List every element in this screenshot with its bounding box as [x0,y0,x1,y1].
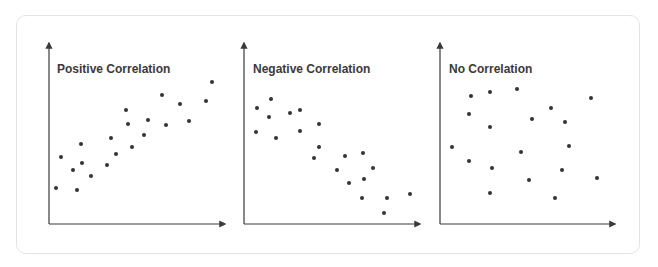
data-point [527,178,531,182]
data-point [360,196,364,200]
data-point [105,163,109,167]
data-point [130,145,134,149]
data-point [114,152,118,156]
data-point [317,122,321,126]
data-point [469,94,473,98]
data-point [488,125,492,129]
data-point [467,112,471,116]
data-point [595,176,599,180]
data-point [312,156,316,160]
data-point [335,168,339,172]
data-point [288,111,292,115]
data-point [160,93,164,97]
data-point [467,159,471,163]
data-point [146,118,150,122]
data-point [549,106,553,110]
data-point [317,145,321,149]
data-point [450,145,454,149]
data-point [187,119,191,123]
data-point [71,168,75,172]
data-point [515,87,519,91]
data-point [124,108,128,112]
data-point [178,102,182,106]
panel-negative-correlation: Negative Correlation [244,43,420,224]
chart-title: No Correlation [449,62,532,76]
data-point [126,122,130,126]
data-point [361,151,365,155]
chart-title: Negative Correlation [253,62,370,76]
data-point [553,196,557,200]
panel-positive-correlation: Positive Correlation [49,43,225,224]
panel-no-correlation: No Correlation [440,43,615,224]
data-point [274,136,278,140]
scatter-plots: Positive Correlation Negative Correlatio… [0,0,658,267]
data-point [75,188,79,192]
data-point [382,211,386,215]
data-point [54,186,58,190]
data-point [519,150,523,154]
data-point [530,117,534,121]
data-point [563,120,567,124]
data-point [385,196,389,200]
data-point [142,133,146,137]
data-point [488,191,492,195]
data-point [59,155,63,159]
data-point [204,99,208,103]
data-point [298,108,302,112]
data-point [567,144,571,148]
data-point [589,96,593,100]
data-point [560,168,564,172]
data-point [269,97,273,101]
data-point [343,154,347,158]
data-point [408,192,412,196]
data-point [347,181,351,185]
data-point [210,80,214,84]
data-point [109,136,113,140]
chart-title: Positive Correlation [57,62,170,76]
data-point [488,90,492,94]
data-point [490,166,494,170]
data-point [255,106,259,110]
data-point [79,142,83,146]
data-point [371,166,375,170]
data-point [164,123,168,127]
data-point [362,177,366,181]
data-point [298,129,302,133]
data-point [89,174,93,178]
data-point [254,130,258,134]
data-point [267,115,271,119]
data-point [80,161,84,165]
